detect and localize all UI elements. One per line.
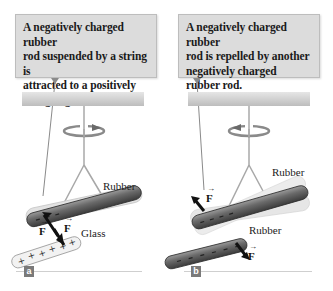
rubber-label: Rubber	[272, 166, 304, 178]
panel-a: A negatively charged rubber rod suspende…	[0, 0, 166, 291]
rubber-label: Rubber	[103, 180, 135, 192]
force-vector-label: F	[64, 222, 71, 234]
rubber-label: Rubber	[249, 224, 281, 236]
ceiling-bar	[188, 92, 310, 106]
ceiling-bar	[22, 92, 144, 106]
glass-label: Glass	[81, 227, 105, 239]
force-vector-label: F	[248, 250, 255, 262]
force-vector-label: F	[39, 225, 46, 237]
panel-b: A negatively charged rubber rod is repel…	[166, 0, 332, 291]
rubber-rod-fixed	[164, 237, 249, 270]
part-label-b: b	[191, 266, 201, 277]
force-vector-label: F	[206, 192, 213, 204]
glass-rod: +++ +++	[10, 235, 82, 270]
part-divider	[16, 271, 142, 272]
part-label-a: a	[24, 266, 34, 277]
part-divider	[184, 271, 312, 272]
attraction-diagram: +++ +++	[0, 0, 166, 291]
